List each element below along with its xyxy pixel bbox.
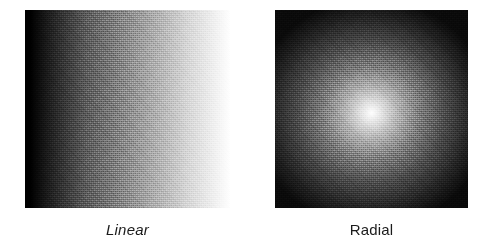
radial-gradient-swatch bbox=[275, 10, 468, 208]
linear-gradient-caption: Linear bbox=[25, 220, 230, 240]
linear-gradient-swatch bbox=[25, 10, 230, 208]
radial-gradient-panel bbox=[275, 10, 468, 208]
radial-gradient-caption: Radial bbox=[275, 220, 468, 240]
gradient-comparison-figure: Linear Radial bbox=[0, 0, 494, 248]
linear-gradient-panel bbox=[25, 10, 230, 208]
